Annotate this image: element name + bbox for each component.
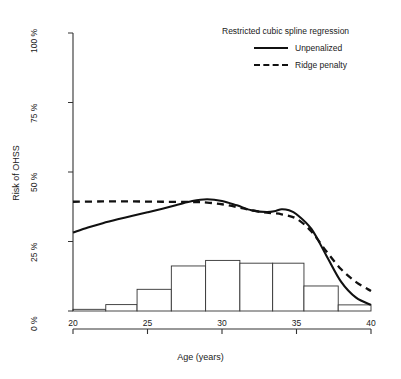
y-tick-label: 25 %: [29, 222, 39, 262]
legend-item-ridge-penalty: Ridge penalty: [222, 60, 394, 70]
histogram-bar: [338, 305, 371, 311]
x-tick-label: 20: [58, 318, 88, 328]
legend-swatch-solid-line-icon: [254, 43, 288, 53]
y-tick-label-wrap: 100 %: [14, 28, 54, 38]
histogram-bar: [273, 263, 304, 311]
y-tick-label: 0 %: [29, 291, 39, 331]
y-tick-label: 50 %: [29, 152, 39, 192]
x-axis-title: Age (years): [0, 352, 401, 362]
histogram-bar: [73, 309, 106, 311]
y-tick-label-wrap: 25 %: [14, 237, 54, 247]
y-axis-line: [68, 33, 73, 311]
legend-label-ridge-penalty: Ridge penalty: [295, 60, 347, 70]
x-tick-label: 25: [133, 318, 163, 328]
histogram-bar: [171, 266, 205, 311]
chart-legend: Restricted cubic spline regression Unpen…: [222, 26, 394, 70]
x-tick-label: 40: [356, 318, 386, 328]
histogram-bar: [137, 289, 171, 311]
legend-label-unpenalized: Unpenalized: [295, 43, 342, 53]
histogram-bar: [106, 305, 137, 311]
legend-item-unpenalized: Unpenalized: [222, 43, 394, 53]
legend-title: Restricted cubic spline regression: [222, 26, 394, 36]
histogram-bar: [240, 263, 273, 311]
x-axis-line: [73, 329, 371, 334]
histogram-bar: [206, 260, 240, 311]
y-tick-label-wrap: 75 %: [14, 98, 54, 108]
y-tick-label: 75 %: [29, 83, 39, 123]
histogram-bar: [304, 286, 338, 311]
y-tick-label-wrap: 0 %: [14, 306, 54, 316]
chart-figure: Age (years) Risk of OHSS 2025303540 0 %2…: [0, 0, 401, 379]
y-tick-label-wrap: 50 %: [14, 167, 54, 177]
histogram-series: [73, 260, 371, 311]
x-tick-label: 35: [282, 318, 312, 328]
y-tick-label: 100 %: [29, 13, 39, 53]
x-tick-label: 30: [207, 318, 237, 328]
legend-swatch-dashed-line-icon: [254, 60, 288, 70]
